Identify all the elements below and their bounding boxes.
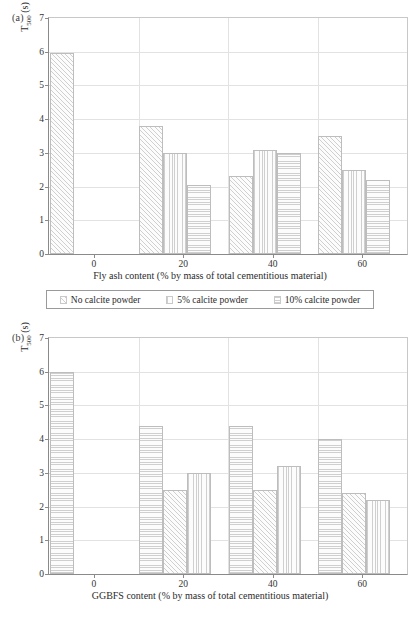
y-axis-tick-label: 4 xyxy=(39,434,44,444)
legend-swatch-icon xyxy=(60,296,67,304)
x-axis-tick-mark xyxy=(94,574,95,578)
y-axis-tick-mark xyxy=(45,405,49,406)
bar xyxy=(187,473,211,574)
bar xyxy=(139,426,163,574)
bar xyxy=(253,490,277,574)
x-axis-tick-label: 60 xyxy=(358,259,368,269)
bar xyxy=(163,490,187,574)
panel-b-y-axis-label-sub: 500 xyxy=(25,335,33,346)
bar xyxy=(277,466,301,574)
y-axis-tick-label: 0 xyxy=(39,249,44,259)
panel-a-plot-area: 01234567 0204060 xyxy=(48,17,408,255)
y-axis-tick-label: 7 xyxy=(39,333,44,343)
x-axis-tick-label: 0 xyxy=(91,579,96,589)
y-axis-tick-label: 3 xyxy=(39,148,44,158)
panel-b-y-axis-label-unit: (s) xyxy=(19,322,30,335)
y-axis-tick-mark xyxy=(45,153,49,154)
y-axis-tick-mark xyxy=(45,254,49,255)
y-axis-tick-mark xyxy=(45,220,49,221)
y-axis-tick-mark xyxy=(45,85,49,86)
panel-a-y-axis-label-unit: (s) xyxy=(19,2,30,15)
figure: (a) T500 (s) 01234567 0204060 Fly ash co… xyxy=(0,0,420,639)
x-axis-tick-mark xyxy=(273,254,274,258)
bar xyxy=(366,500,390,574)
bar xyxy=(50,372,74,574)
x-axis-tick-mark xyxy=(362,254,363,258)
y-axis-tick-label: 5 xyxy=(39,400,44,410)
panel-a-y-axis-label-base: T xyxy=(19,26,30,32)
y-axis-tick-label: 1 xyxy=(39,215,44,225)
y-axis-tick-mark xyxy=(45,574,49,575)
panel-b: (b) T500 (s) 01234567 0204060 GGBFS cont… xyxy=(0,320,420,639)
y-axis-tick-label: 6 xyxy=(39,47,44,57)
y-axis-tick-mark xyxy=(45,473,49,474)
y-axis-tick-mark xyxy=(45,187,49,188)
y-axis-tick-label: 2 xyxy=(39,182,44,192)
y-axis-tick-label: 2 xyxy=(39,502,44,512)
y-axis-tick-label: 7 xyxy=(39,13,44,23)
y-axis-tick-mark xyxy=(45,18,49,19)
bar xyxy=(342,170,366,254)
x-axis-tick-mark xyxy=(273,574,274,578)
bar xyxy=(253,150,277,255)
panel-b-plot-area: 01234567 0204060 xyxy=(48,337,408,575)
y-axis-tick-label: 6 xyxy=(39,367,44,377)
y-axis-tick-label: 5 xyxy=(39,80,44,90)
bar xyxy=(318,136,342,254)
legend-label: 10% calcite powder xyxy=(285,295,360,305)
legend-label: 5% calcite powder xyxy=(177,295,248,305)
bar xyxy=(342,493,366,574)
bar xyxy=(229,176,253,254)
y-axis-tick-mark xyxy=(45,119,49,120)
legend-label: No calcite powder xyxy=(71,295,141,305)
y-axis-tick-label: 1 xyxy=(39,535,44,545)
bar xyxy=(318,439,342,574)
x-axis-tick-label: 40 xyxy=(268,259,278,269)
legend-item: 10% calcite powder xyxy=(274,295,360,305)
y-axis-tick-mark xyxy=(45,540,49,541)
x-axis-tick-label: 0 xyxy=(91,259,96,269)
panel-a-x-axis-label: Fly ash content (% by mass of total ceme… xyxy=(0,270,420,281)
y-axis-tick-label: 0 xyxy=(39,569,44,579)
panel-a-legend: No calcite powder5% calcite powder10% ca… xyxy=(46,290,374,309)
bar xyxy=(139,126,163,254)
legend-item: 5% calcite powder xyxy=(166,295,248,305)
y-axis-tick-label: 3 xyxy=(39,468,44,478)
bar xyxy=(277,153,301,254)
y-axis-tick-mark xyxy=(45,372,49,373)
y-axis-tick-mark xyxy=(45,439,49,440)
x-axis-tick-mark xyxy=(183,574,184,578)
x-axis-tick-label: 20 xyxy=(179,579,189,589)
panel-a: (a) T500 (s) 01234567 0204060 Fly ash co… xyxy=(0,0,420,320)
x-axis-tick-label: 20 xyxy=(179,259,189,269)
panel-a-y-axis-label-sub: 500 xyxy=(25,15,33,26)
y-axis-tick-label: 4 xyxy=(39,114,44,124)
bar xyxy=(163,153,187,254)
y-axis-tick-mark xyxy=(45,338,49,339)
x-axis-tick-label: 60 xyxy=(358,579,368,589)
legend-swatch-icon xyxy=(274,296,281,304)
x-axis-tick-mark xyxy=(183,254,184,258)
x-axis-tick-label: 40 xyxy=(268,579,278,589)
panel-b-y-axis-label-base: T xyxy=(19,346,30,352)
legend-item: No calcite powder xyxy=(60,295,141,305)
x-axis-tick-mark xyxy=(94,254,95,258)
x-axis-tick-mark xyxy=(362,574,363,578)
bar xyxy=(187,185,211,254)
y-axis-tick-mark xyxy=(45,52,49,53)
y-axis-tick-mark xyxy=(45,507,49,508)
legend-swatch-icon xyxy=(166,296,173,304)
panel-b-x-axis-label: GGBFS content (% by mass of total cement… xyxy=(0,590,420,601)
bar xyxy=(50,53,74,254)
bar xyxy=(229,426,253,574)
bar xyxy=(366,180,390,254)
